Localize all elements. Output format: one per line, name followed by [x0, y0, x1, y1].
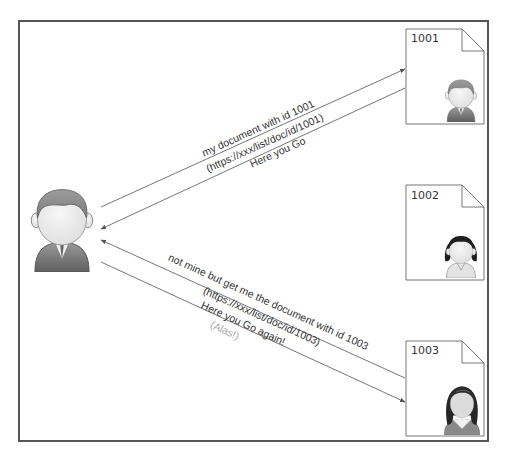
male-user-icon	[445, 80, 476, 122]
male-user-icon	[31, 190, 92, 272]
document-1001: 1001	[406, 29, 484, 124]
female-user-icon	[445, 236, 477, 278]
document-id-label: 1002	[411, 189, 439, 202]
document-1003: 1003	[406, 341, 484, 436]
document-id-label: 1003	[411, 344, 439, 357]
diagram-svg: 1001 1002 1003 my document with id 1001 …	[0, 0, 508, 457]
request-arrow-1001	[101, 69, 405, 207]
document-1002: 1002	[406, 185, 484, 280]
document-id-label: 1001	[411, 32, 439, 45]
requester-avatar	[31, 190, 92, 272]
diagram-canvas: 1001 1002 1003 my document with id 1001 …	[0, 0, 508, 457]
exchange-1-labels: my document with id 1001 (https://xxx/li…	[197, 96, 330, 187]
